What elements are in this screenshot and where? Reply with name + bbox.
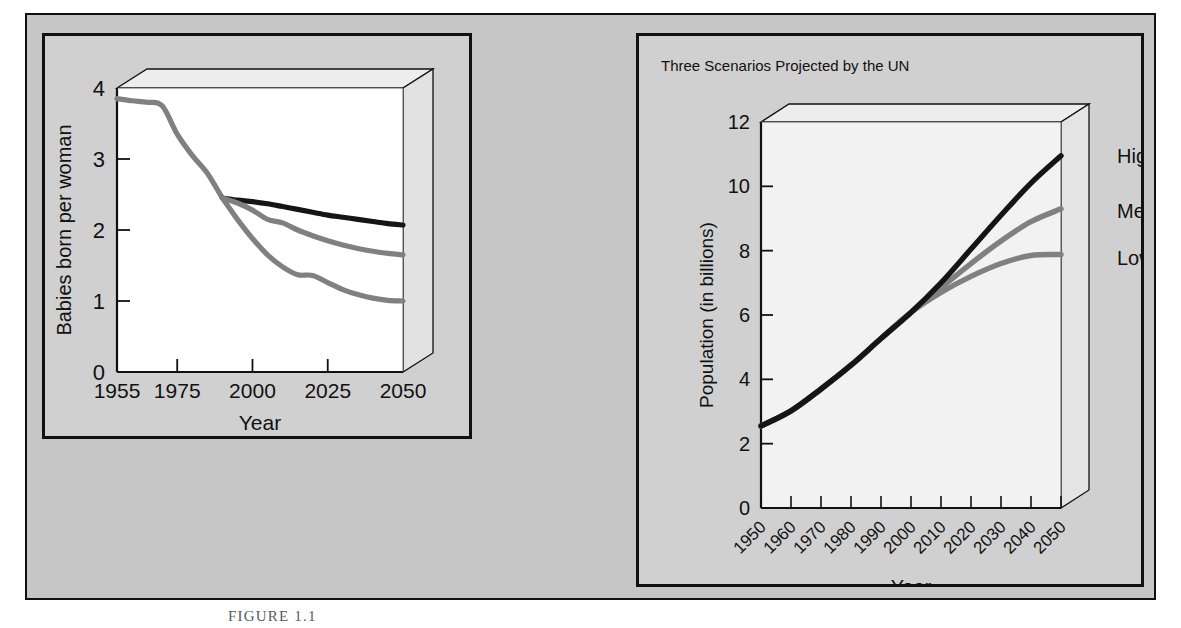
y-tick-label: 6 — [739, 304, 750, 326]
population-chart-panel: Three Scenarios Projected by the UN 0246… — [636, 33, 1144, 587]
x-tick-label: 2030 — [970, 517, 1010, 557]
y-tick-label: 4 — [93, 76, 105, 101]
box-right-face — [1061, 104, 1089, 508]
series-label-low: Low — [1117, 247, 1141, 269]
x-tick-label: 1990 — [850, 517, 890, 557]
box-top-face — [117, 69, 433, 88]
y-tick-label: 4 — [739, 368, 750, 390]
y-tick-label: 2 — [739, 433, 750, 455]
x-tick-label: 2000 — [880, 517, 920, 557]
y-tick-label: 0 — [739, 497, 750, 519]
y-axis-label: Population (in billions) — [696, 222, 717, 408]
x-tick-label: 2050 — [380, 379, 427, 402]
plot-area — [117, 88, 403, 372]
figure-caption: FIGURE 1.1 — [228, 608, 317, 625]
population-chart-title: Three Scenarios Projected by the UN — [661, 57, 909, 74]
x-tick-label: 1970 — [790, 517, 830, 557]
fertility-chart-panel: 0123419551975200020252050YearBabies born… — [42, 33, 472, 439]
y-tick-label: 12 — [728, 111, 750, 133]
x-tick-label: 1980 — [820, 517, 860, 557]
series-label-medium: Medium — [1117, 200, 1141, 222]
x-axis-label: Year — [891, 576, 932, 584]
population-chart-svg: 0246810121950196019701980199020002010202… — [639, 36, 1141, 584]
figure-caption-area: FIGURE 1.1 — [0, 607, 1181, 628]
x-tick-label: 1960 — [760, 517, 800, 557]
y-tick-label: 10 — [728, 175, 750, 197]
y-axis-label: Babies born per woman — [53, 124, 75, 335]
x-tick-label: 2000 — [229, 379, 276, 402]
x-tick-label: 2025 — [304, 379, 351, 402]
y-tick-label: 3 — [93, 147, 105, 172]
x-tick-label: 2050 — [1030, 517, 1070, 557]
figure-root: 0123419551975200020252050YearBabies born… — [0, 0, 1181, 628]
box-right-face — [403, 69, 433, 372]
x-tick-label: 2020 — [940, 517, 980, 557]
box-top-face — [761, 104, 1089, 122]
fertility-chart-svg: 0123419551975200020252050YearBabies born… — [45, 36, 469, 436]
y-tick-label: 1 — [93, 289, 105, 314]
y-tick-label: 2 — [93, 218, 105, 243]
x-axis-label: Year — [239, 411, 281, 434]
x-tick-label: 2040 — [1000, 517, 1040, 557]
y-tick-label: 8 — [739, 240, 750, 262]
x-tick-label: 2010 — [910, 517, 950, 557]
series-label-high: High — [1117, 145, 1141, 167]
figure-frame: 0123419551975200020252050YearBabies born… — [25, 13, 1156, 600]
x-tick-label: 1975 — [154, 379, 201, 402]
x-tick-label: 1955 — [94, 379, 141, 402]
x-tick-label: 1950 — [730, 517, 770, 557]
